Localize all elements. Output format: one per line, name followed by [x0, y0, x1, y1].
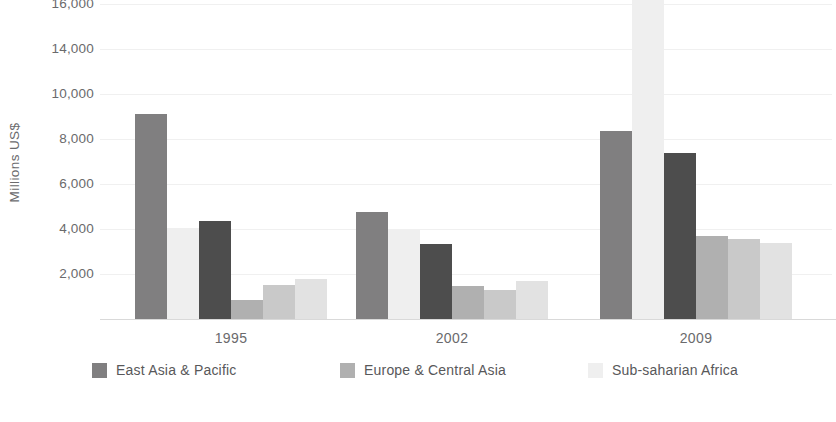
bar-group-2002: [356, 6, 548, 319]
legend-swatch-icon: [588, 363, 603, 378]
bar-group-1995: [135, 6, 327, 319]
legend-item[interactable]: Sub-saharian Africa: [588, 358, 836, 382]
bar-chart: Millions US$ 16,00014,00010,0008,0006,00…: [0, 0, 836, 422]
bar: [356, 212, 388, 319]
bar: [696, 236, 728, 319]
legend-label: Europe & Central Asia: [364, 362, 506, 378]
bar: [452, 286, 484, 319]
y-axis-tick-label: 10,000: [32, 87, 94, 101]
x-axis-label-2009: 2009: [636, 330, 756, 346]
y-axis-tick-labels: 16,00014,00010,0008,0006,0004,0002,000: [28, 0, 94, 325]
bar: [600, 131, 632, 319]
legend-item[interactable]: East Asia & Pacific: [92, 358, 340, 382]
x-axis-label-2002: 2002: [392, 330, 512, 346]
legend-swatch-icon: [340, 363, 355, 378]
bar: [231, 300, 263, 319]
bar: [484, 290, 516, 319]
bar: [295, 279, 327, 320]
bar: [664, 153, 696, 320]
bar: [632, 0, 664, 319]
bar-group-2009: [600, 6, 792, 319]
bar: [760, 243, 792, 320]
bar: [516, 281, 548, 319]
x-axis-label-1995: 1995: [171, 330, 291, 346]
y-axis-tick-label: 8,000: [32, 132, 94, 146]
legend-item[interactable]: Europe & Central Asia: [340, 358, 588, 382]
y-axis-tick-label: 16,000: [32, 0, 94, 11]
chart-legend: East Asia & PacificEurope & Central Asia…: [92, 358, 836, 382]
gridline: [100, 4, 832, 5]
bar: [728, 239, 760, 319]
y-axis-tick-label: 2,000: [32, 267, 94, 281]
bar: [420, 244, 452, 319]
cropped-title-remnant: [330, 0, 450, 2]
legend-label: East Asia & Pacific: [116, 362, 237, 378]
x-axis-baseline: [100, 319, 836, 320]
y-axis-tick-label: 14,000: [32, 42, 94, 56]
plot-area: [100, 6, 836, 319]
y-axis-title: Millions US$: [0, 0, 30, 325]
y-axis-title-label: Millions US$: [8, 123, 23, 203]
legend-label: Sub-saharian Africa: [612, 362, 738, 378]
legend-swatch-icon: [92, 363, 107, 378]
bar: [263, 285, 295, 319]
bar: [199, 221, 231, 319]
bar: [388, 230, 420, 319]
bar: [135, 114, 167, 319]
y-axis-tick-label: 4,000: [32, 222, 94, 236]
bar: [167, 228, 199, 319]
y-axis-tick-label: 6,000: [32, 177, 94, 191]
